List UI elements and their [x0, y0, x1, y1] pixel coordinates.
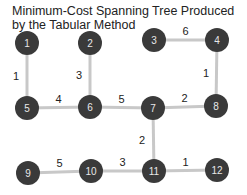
edge-weight-label: 2 [139, 134, 145, 146]
edge-weight-label: 6 [182, 25, 188, 37]
edge-weight-label: 1 [203, 67, 209, 79]
node-4: 4 [205, 28, 229, 52]
node-label: 11 [149, 166, 160, 177]
edge-weight-label: 1 [13, 70, 19, 82]
node-6: 6 [78, 95, 102, 119]
node-label: 2 [87, 38, 93, 49]
node-10: 10 [79, 159, 103, 183]
node-label: 10 [85, 166, 97, 177]
node-label: 5 [24, 103, 30, 114]
node-label: 3 [151, 35, 157, 46]
node-9: 9 [16, 161, 40, 185]
node-label: 4 [214, 35, 220, 46]
edge-weight-label: 4 [55, 93, 61, 105]
node-5: 5 [15, 96, 39, 120]
node-label: 7 [150, 103, 156, 114]
spanning-tree-graph: 13614522531 123456789101112 [0, 0, 247, 195]
edge-weight-label: 5 [56, 157, 62, 169]
edge-weight-label: 3 [119, 156, 125, 168]
node-8: 8 [204, 94, 228, 118]
node-label: 1 [24, 38, 30, 49]
edge-weight-label: 3 [76, 69, 82, 81]
edge-weight-label: 1 [182, 156, 188, 168]
edge-weight-label: 2 [181, 92, 187, 104]
edge-weight-label: 5 [118, 93, 124, 105]
node-7: 7 [141, 96, 165, 120]
node-label: 8 [213, 101, 219, 112]
node-label: 12 [211, 165, 223, 176]
node-label: 9 [25, 168, 31, 179]
node-label: 6 [87, 102, 93, 113]
node-11: 11 [142, 159, 166, 183]
node-3: 3 [142, 28, 166, 52]
node-1: 1 [15, 31, 39, 55]
node-2: 2 [78, 31, 102, 55]
node-12: 12 [205, 158, 229, 182]
